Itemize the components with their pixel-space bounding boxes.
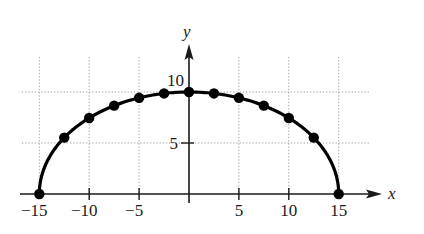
data-point — [259, 100, 269, 110]
data-point — [59, 132, 69, 142]
y-tick-label: 10 — [167, 71, 184, 90]
data-point — [234, 93, 244, 103]
y-tick-label: 5 — [170, 134, 179, 153]
data-point — [309, 132, 319, 142]
x-axis-label: x — [387, 184, 396, 203]
data-point — [209, 88, 219, 98]
x-tick-label: −10 — [71, 201, 98, 220]
data-point — [184, 87, 194, 97]
x-tick-label: −5 — [125, 201, 143, 220]
data-point — [34, 189, 44, 199]
x-tick-label: −15 — [21, 201, 48, 220]
axes: x y — [20, 22, 396, 203]
semi-ellipse-chart: x y −15−10−551015510 — [0, 0, 424, 234]
data-point — [134, 93, 144, 103]
grid — [22, 57, 370, 194]
y-axis-label: y — [181, 22, 191, 41]
data-point — [84, 113, 94, 123]
data-point — [159, 88, 169, 98]
data-point — [109, 100, 119, 110]
x-tick-label: 5 — [235, 201, 244, 220]
x-tick-label: 15 — [330, 201, 347, 220]
x-tick-label: 10 — [280, 201, 297, 220]
data-point — [284, 113, 294, 123]
data-point — [334, 189, 344, 199]
